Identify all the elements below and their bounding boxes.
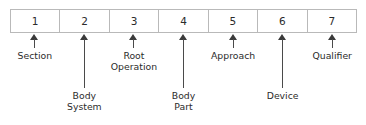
arrow-shaft: [282, 39, 283, 88]
code-character-2: 2: [60, 10, 109, 32]
arrow-shaft: [233, 39, 234, 48]
callout-arrow-1: [30, 34, 39, 48]
arrow-up-icon: [30, 34, 38, 40]
callout-label-7: Qualifier: [312, 50, 351, 61]
arrow-shaft: [34, 39, 35, 48]
code-character-5: 5: [209, 10, 258, 32]
callout-arrow-5: [229, 34, 238, 48]
arrow-up-icon: [129, 34, 137, 40]
arrow-up-icon: [179, 34, 187, 40]
arrow-shaft: [332, 39, 333, 48]
callout-label-4: Body Part: [172, 90, 195, 112]
arrow-shaft: [183, 39, 184, 88]
callout-arrow-6: [278, 34, 287, 88]
arrow-shaft: [133, 39, 134, 48]
callout-label-5: Approach: [211, 50, 255, 61]
code-character-box: 1234567: [10, 9, 357, 33]
code-character-1: 1: [11, 10, 60, 32]
code-character-3: 3: [110, 10, 159, 32]
arrow-shaft: [84, 39, 85, 88]
callout-label-1: Section: [18, 50, 53, 61]
code-character-4: 4: [159, 10, 208, 32]
pcs-code-structure-diagram: 1234567 SectionBody SystemRoot Operation…: [0, 0, 366, 125]
callout-arrow-7: [328, 34, 337, 48]
code-character-6: 6: [258, 10, 307, 32]
arrow-up-icon: [328, 34, 336, 40]
arrow-up-icon: [278, 34, 286, 40]
callout-label-3: Root Operation: [111, 50, 157, 72]
callout-arrow-2: [80, 34, 89, 88]
callout-arrow-4: [179, 34, 188, 88]
arrow-up-icon: [80, 34, 88, 40]
callout-label-2: Body System: [67, 90, 102, 112]
callout-label-6: Device: [267, 90, 299, 101]
code-character-7: 7: [308, 10, 356, 32]
callout-arrow-3: [129, 34, 138, 48]
arrow-up-icon: [229, 34, 237, 40]
